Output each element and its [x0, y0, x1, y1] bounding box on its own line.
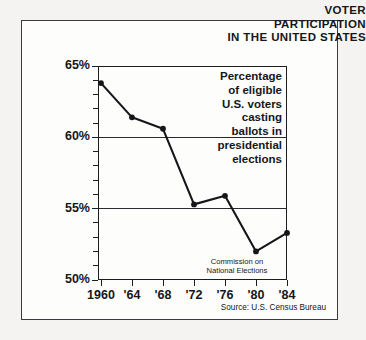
chart-title-line-2: PARTICIPATION — [81, 18, 366, 32]
x-axis-tick — [163, 280, 164, 286]
data-point-marker — [191, 201, 197, 207]
caption-line-7: elections — [178, 153, 282, 167]
caption-line-6: presidential — [178, 139, 282, 153]
x-axis-label: '68 — [155, 288, 172, 302]
chart-title-line-3: IN THE UNITED STATES — [81, 31, 366, 45]
data-point-marker — [129, 114, 135, 120]
data-point-marker — [160, 126, 166, 132]
chart-credit: Commission on National Elections — [192, 257, 282, 276]
caption-line-1: Percentage — [178, 70, 282, 84]
x-axis-tick — [256, 280, 257, 286]
data-point-marker — [284, 230, 290, 236]
caption-line-5: ballots in — [178, 125, 282, 139]
y-axis-label: 50% — [50, 272, 90, 286]
chart-caption: Percentage of eligible U.S. voters casti… — [178, 70, 282, 167]
credit-line-2: National Elections — [192, 266, 282, 275]
caption-line-2: of eligible — [178, 84, 282, 98]
chart-title: VOTER PARTICIPATION IN THE UNITED STATES — [81, 4, 366, 45]
caption-line-4: casting — [178, 111, 282, 125]
data-point-marker — [222, 193, 228, 199]
x-axis-label: '64 — [124, 288, 141, 302]
chart-page: VOTER PARTICIPATION IN THE UNITED STATES… — [0, 0, 366, 340]
x-axis-tick — [287, 280, 288, 286]
chart-source: Source: U.S. Census Bureau — [221, 303, 326, 312]
x-axis-tick — [194, 280, 195, 286]
data-point-marker — [253, 249, 259, 255]
chart-title-line-1: VOTER — [81, 4, 366, 18]
y-axis-label: 55% — [50, 201, 90, 215]
x-axis-label: '76 — [217, 288, 234, 302]
caption-line-3: U.S. voters — [178, 98, 282, 112]
x-axis-label: 1960 — [87, 288, 115, 302]
x-axis-tick — [101, 280, 102, 286]
data-point-marker — [98, 80, 104, 86]
x-axis-label: '80 — [248, 288, 265, 302]
credit-line-1: Commission on — [192, 257, 282, 266]
y-axis-label: 65% — [50, 58, 90, 72]
y-axis-label: 60% — [50, 129, 90, 143]
x-axis-tick — [132, 280, 133, 286]
x-axis-label: '84 — [279, 288, 296, 302]
x-axis-tick — [225, 280, 226, 286]
x-axis-label: '72 — [186, 288, 203, 302]
